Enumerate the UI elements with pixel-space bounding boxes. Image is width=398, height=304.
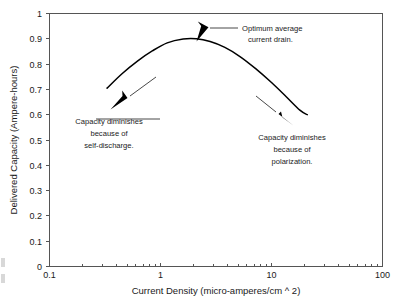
- y-tick-labels: 1 0.9 0.8 0.7 0.6 0.5 0.4 0.3 0.2 0.1 0: [29, 9, 42, 272]
- y-tick-label: 0.5: [29, 136, 42, 146]
- annotation-optimum-line1: Optimum average: [242, 24, 302, 33]
- y-axis-title: Delivered Capacity (Ampere-hours): [8, 66, 19, 215]
- y-tick-label: 0.9: [29, 34, 42, 44]
- x-tick-label: 1: [158, 270, 163, 280]
- y-tick-label: 0.7: [29, 85, 42, 95]
- x-tick-label: 0.1: [43, 270, 56, 280]
- y-tick-label: 0.8: [29, 60, 42, 70]
- annotation-polarization: Capacity diminishes because of polarizat…: [256, 96, 326, 166]
- y-tick-label: 0.2: [29, 211, 42, 221]
- annotation-optimum-line2: current drain.: [248, 35, 293, 44]
- plot-frame: [50, 14, 383, 267]
- annotation-polarization-line1: Capacity diminishes: [258, 133, 326, 142]
- x-tick-label: 100: [375, 270, 390, 280]
- annotation-optimum: Optimum average current drain.: [197, 22, 303, 44]
- y-tick-label: 0.6: [29, 110, 42, 120]
- x-axis-major-ticks: [50, 263, 383, 267]
- x-tick-label: 10: [266, 270, 276, 280]
- y-tick-label: 1: [37, 9, 42, 19]
- annotation-self-discharge-line2: because of: [90, 129, 128, 138]
- chart-figure: 1 0.9 0.8 0.7 0.6 0.5 0.4 0.3 0.2 0.1 0 …: [0, 0, 398, 304]
- x-axis-title: Current Density (micro-amperes/cm ^ 2): [132, 285, 301, 296]
- annotation-polarization-line2: because of: [273, 145, 311, 154]
- chart-canvas: 1 0.9 0.8 0.7 0.6 0.5 0.4 0.3 0.2 0.1 0 …: [0, 0, 398, 304]
- capacity-curve: [107, 39, 307, 115]
- scan-edge-artifacts: [1, 258, 5, 283]
- y-tick-label: 0.1: [29, 237, 42, 247]
- y-tick-label: 0.4: [29, 161, 42, 171]
- annotation-polarization-line3: polarization.: [272, 157, 313, 166]
- y-tick-label: 0.3: [29, 186, 42, 196]
- y-axis-ticks: [46, 14, 50, 267]
- annotation-self-discharge: Capacity diminishes because of self-disc…: [75, 77, 160, 150]
- annotation-self-discharge-line1: Capacity diminishes: [75, 117, 143, 126]
- y-tick-label: 0: [37, 262, 42, 272]
- x-tick-labels: 0.1 1 10 100: [43, 270, 390, 280]
- annotation-self-discharge-line3: self-discharge.: [84, 141, 133, 150]
